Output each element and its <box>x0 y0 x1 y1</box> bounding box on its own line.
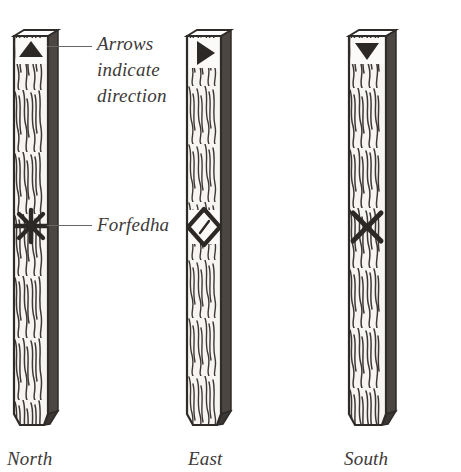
leader-line-forfedha <box>47 225 92 226</box>
stave-side-face <box>48 30 58 414</box>
diamond-forfedha-icon <box>188 209 220 245</box>
stave-side-face <box>221 30 231 414</box>
stave-north-graphic <box>10 28 70 428</box>
caption-east: East <box>188 448 223 470</box>
stave-south-graphic <box>344 28 408 428</box>
annotation-arrows-indicate-direction: Arrows indicate direction <box>97 31 167 109</box>
stave-east <box>183 28 243 428</box>
forfedha-center-dot <box>28 223 35 230</box>
caption-north: North <box>7 448 52 470</box>
caption-south: South <box>344 448 388 470</box>
stave-north <box>10 28 70 428</box>
stave-south <box>344 28 408 428</box>
stave-side-face <box>386 30 396 414</box>
stave-east-graphic <box>183 28 243 428</box>
annotation-forfedha: Forfedha <box>97 212 169 238</box>
leader-line-arrows <box>47 46 92 47</box>
direction-staves-figure: Arrows indicate direction Forfedha North… <box>0 0 461 472</box>
